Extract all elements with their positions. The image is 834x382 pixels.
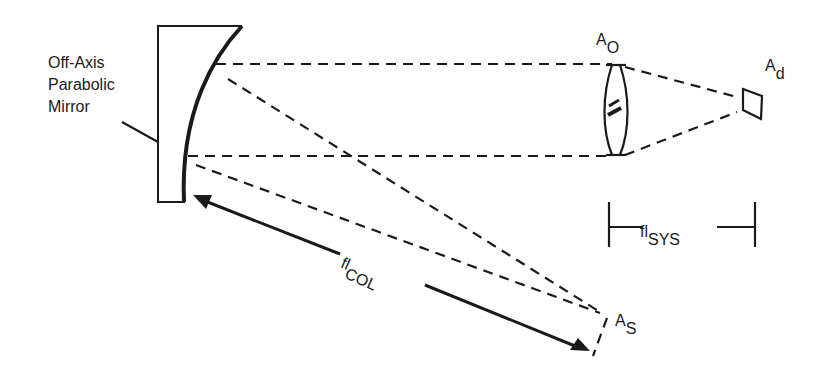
objective-aperture-sub: O [607,39,619,56]
fl-col-arrow [193,195,590,351]
fl-sys-main: fl [640,223,648,240]
mirror-label-line1: Off-Axis [48,52,115,74]
mirror-label-leader [122,122,158,142]
source-aperture-sub: S [626,320,637,337]
detector [743,89,762,119]
mirror-label: Off-Axis Parabolic Mirror [48,52,115,118]
detector-aperture-sub: d [776,65,785,82]
mirror-label-line3: Mirror [48,96,115,118]
mirror-label-line2: Parabolic [48,74,115,96]
ray-paths [188,64,737,356]
source-aperture-main: A [615,312,626,329]
objective-aperture-main: A [596,31,607,48]
detector-aperture-main: A [765,57,776,74]
detector-aperture-label: Ad [765,58,785,74]
fl-sys-label: flSYS [640,224,680,240]
fl-sys-bracket [609,202,755,247]
mirror-body [158,26,242,202]
optical-diagram [0,0,834,382]
source-aperture-label: AS [615,313,636,329]
objective-lens [605,65,628,155]
fl-sys-sub: SYS [648,231,680,248]
objective-aperture-label: AO [596,32,619,48]
